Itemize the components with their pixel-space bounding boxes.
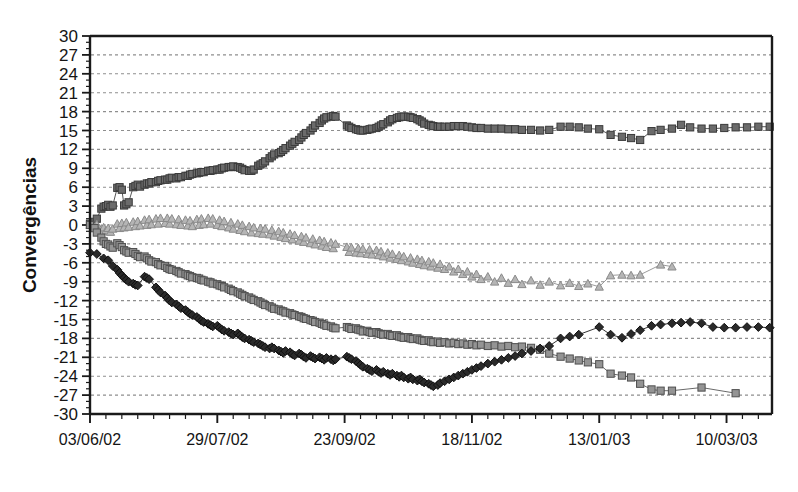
data-point	[505, 126, 512, 133]
data-point	[477, 341, 484, 348]
y-tick-label: -27	[53, 386, 78, 405]
data-point	[125, 199, 132, 206]
data-point	[491, 342, 498, 349]
data-point	[648, 128, 655, 135]
x-tick-label: 10/03/03	[695, 431, 757, 448]
y-tick-label: 15	[59, 122, 78, 141]
data-point	[618, 133, 625, 140]
data-point	[743, 124, 750, 131]
data-point	[721, 124, 728, 131]
y-tick-label: 3	[69, 197, 78, 216]
y-tick-label: -21	[53, 348, 78, 367]
data-point	[477, 124, 484, 131]
data-point	[732, 390, 739, 397]
data-point	[618, 372, 625, 379]
data-point	[709, 125, 716, 132]
data-point	[484, 342, 491, 349]
data-point	[732, 124, 739, 131]
data-point	[648, 386, 655, 393]
data-point	[512, 126, 519, 133]
y-tick-label: -12	[53, 292, 78, 311]
y-tick-label: 27	[59, 46, 78, 65]
data-point	[491, 125, 498, 132]
data-point	[498, 343, 505, 350]
data-point	[657, 387, 664, 394]
y-tick-label: -6	[63, 254, 78, 273]
data-point	[677, 121, 684, 128]
data-point	[575, 357, 582, 364]
y-tick-label: 12	[59, 140, 78, 159]
data-point	[566, 123, 573, 130]
data-point	[687, 124, 694, 131]
data-point	[755, 123, 762, 130]
y-tick-label: 9	[69, 159, 78, 178]
data-point	[698, 384, 705, 391]
data-point	[546, 126, 553, 133]
data-point	[584, 359, 591, 366]
convergencias-scatter-chart: 302724211815129630-3-6-9-12-15-18-21-24-…	[0, 0, 798, 492]
data-point	[607, 370, 614, 377]
y-tick-label: 21	[59, 84, 78, 103]
y-axis-title: Convergências	[19, 157, 40, 293]
data-point	[596, 361, 603, 368]
data-point	[607, 131, 614, 138]
y-tick-label: 24	[59, 65, 78, 84]
data-point	[627, 374, 634, 381]
x-tick-label: 23/09/02	[313, 431, 375, 448]
data-point	[512, 344, 519, 351]
data-point	[109, 202, 116, 209]
data-point	[668, 387, 675, 394]
data-point	[332, 113, 339, 120]
data-point	[537, 127, 544, 134]
data-point	[518, 126, 525, 133]
y-tick-label: -30	[53, 405, 78, 424]
x-tick-label: 03/06/02	[59, 431, 121, 448]
data-point	[118, 186, 125, 193]
data-point	[637, 136, 644, 143]
data-point	[498, 125, 505, 132]
data-point	[698, 125, 705, 132]
y-tick-label: 30	[59, 27, 78, 46]
y-tick-label: -9	[63, 273, 78, 292]
y-tick-label: 0	[69, 216, 78, 235]
x-tick-label: 13/01/03	[568, 431, 630, 448]
data-point	[332, 325, 339, 332]
data-point	[596, 126, 603, 133]
data-point	[657, 126, 664, 133]
data-point	[505, 342, 512, 349]
data-point	[575, 124, 582, 131]
figure-root: 302724211815129630-3-6-9-12-15-18-21-24-…	[0, 0, 798, 492]
data-point	[557, 123, 564, 130]
x-tick-label: 18/11/02	[441, 431, 502, 448]
y-tick-label: -24	[53, 367, 78, 386]
figure-caption	[58, 470, 758, 490]
data-point	[637, 380, 644, 387]
data-point	[627, 134, 634, 141]
data-point	[668, 125, 675, 132]
y-tick-label: 18	[59, 103, 78, 122]
x-tick-label: 29/07/02	[186, 431, 248, 448]
y-tick-label: -3	[63, 235, 78, 254]
data-point	[527, 126, 534, 133]
data-point	[557, 353, 564, 360]
chart-container: 302724211815129630-3-6-9-12-15-18-21-24-…	[0, 0, 798, 492]
y-tick-label: -18	[53, 329, 78, 348]
data-point	[484, 125, 491, 132]
y-tick-label: 6	[69, 178, 78, 197]
y-tick-label: -15	[53, 311, 78, 330]
data-point	[566, 355, 573, 362]
data-point	[584, 125, 591, 132]
